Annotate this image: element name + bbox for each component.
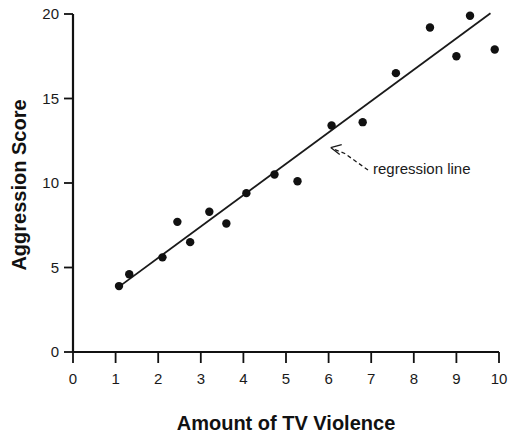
y-tick-label: 5 xyxy=(51,259,59,276)
x-tick-label: 4 xyxy=(239,370,247,387)
data-point xyxy=(392,69,400,77)
y-tick-label: 0 xyxy=(51,343,59,360)
x-axis-ticks xyxy=(73,352,499,363)
data-point xyxy=(466,11,474,19)
x-tick-label: 10 xyxy=(491,370,508,387)
y-tick-label: 20 xyxy=(42,5,59,22)
annotation-dashed-leader xyxy=(335,150,368,170)
x-tick-label: 5 xyxy=(282,370,290,387)
axes-group xyxy=(73,14,499,352)
x-tick-label: 7 xyxy=(367,370,375,387)
data-point xyxy=(125,270,133,278)
x-tick-label: 6 xyxy=(324,370,332,387)
data-point xyxy=(186,238,194,246)
y-axis-title: Aggression Score xyxy=(8,99,30,270)
data-point xyxy=(173,218,181,226)
x-axis-tick-labels: 012345678910 xyxy=(69,370,508,387)
x-tick-label: 0 xyxy=(69,370,77,387)
y-axis-tick-labels: 05101520 xyxy=(42,5,59,360)
plot-canvas: 05101520 012345678910 regression line Am… xyxy=(0,0,514,442)
regression-line-annotation: regression line xyxy=(331,145,471,177)
data-point xyxy=(242,189,250,197)
scatter-plot-figure: 05101520 012345678910 regression line Am… xyxy=(0,0,514,442)
data-point xyxy=(358,118,366,126)
data-point xyxy=(270,170,278,178)
data-point xyxy=(327,121,335,129)
data-point xyxy=(293,177,301,185)
data-point xyxy=(222,219,230,227)
y-tick-label: 15 xyxy=(42,90,59,107)
data-point xyxy=(205,208,213,216)
data-point xyxy=(115,282,123,290)
x-tick-label: 8 xyxy=(410,370,418,387)
data-point xyxy=(452,52,460,60)
data-point xyxy=(426,23,434,31)
data-point xyxy=(491,45,499,53)
regression-line xyxy=(116,13,490,288)
x-axis-title: Amount of TV Violence xyxy=(177,412,396,434)
x-tick-label: 9 xyxy=(452,370,460,387)
x-tick-label: 2 xyxy=(154,370,162,387)
x-tick-label: 1 xyxy=(111,370,119,387)
annotation-label: regression line xyxy=(373,160,471,177)
x-tick-label: 3 xyxy=(197,370,205,387)
y-tick-label: 10 xyxy=(42,174,59,191)
y-axis-ticks xyxy=(64,14,73,352)
data-point xyxy=(158,253,166,261)
